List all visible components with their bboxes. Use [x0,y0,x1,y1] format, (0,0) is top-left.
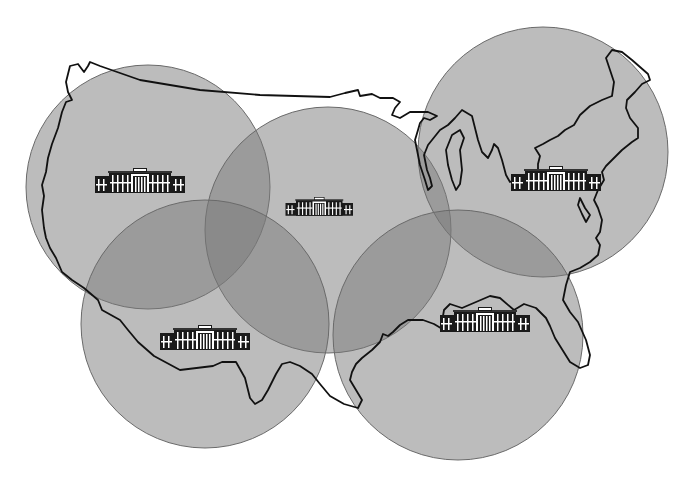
coverage-region-southwest [81,200,329,448]
facility-central[interactable] [286,197,354,216]
building-icon [286,197,354,216]
facility-southeast[interactable] [440,307,530,332]
coverage-map [0,0,691,483]
building-icon [511,166,601,191]
building-icon [95,168,185,193]
building-icon [160,325,250,350]
facility-northwest[interactable] [95,168,185,193]
coverage-region-southeast [333,210,583,460]
facility-southwest[interactable] [160,325,250,350]
building-icon [440,307,530,332]
facility-northeast[interactable] [511,166,601,191]
